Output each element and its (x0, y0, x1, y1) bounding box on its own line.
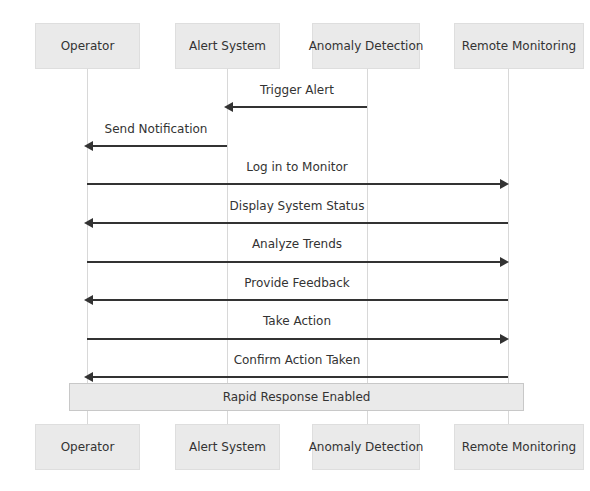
actor-operator-top: Operator (35, 23, 140, 69)
lifeline-operator (87, 68, 88, 424)
message-arrow (92, 145, 227, 147)
arrow-head-right-icon (500, 334, 509, 344)
actor-alert-system-bottom: Alert System (175, 424, 280, 470)
message-arrow (232, 106, 367, 108)
actor-label: Alert System (189, 39, 266, 53)
message-label: Analyze Trends (252, 237, 342, 251)
arrow-head-left-icon (84, 372, 93, 382)
actor-label: Operator (61, 39, 115, 53)
actor-remote-monitoring-top: Remote Monitoring (454, 23, 584, 69)
arrow-head-left-icon (84, 295, 93, 305)
actor-label: Remote Monitoring (462, 440, 576, 454)
actor-remote-monitoring-bottom: Remote Monitoring (454, 424, 584, 470)
message-label: Provide Feedback (244, 276, 349, 290)
message-label: Log in to Monitor (246, 160, 347, 174)
message-arrow (87, 261, 501, 263)
lifeline-anomaly-detection (367, 68, 368, 424)
lifeline-alert-system (227, 68, 228, 424)
sequence-diagram: Operator Alert System Anomaly Detection … (0, 0, 590, 491)
arrow-head-left-icon (224, 102, 233, 112)
actor-label: Remote Monitoring (462, 39, 576, 53)
lifeline-remote-monitoring (508, 68, 509, 424)
note-rapid-response: Rapid Response Enabled (69, 383, 524, 411)
message-label: Send Notification (105, 122, 208, 136)
arrow-head-left-icon (84, 141, 93, 151)
actor-label: Operator (61, 440, 115, 454)
message-arrow (93, 222, 508, 224)
actor-alert-system-top: Alert System (175, 23, 280, 69)
actor-operator-bottom: Operator (35, 424, 140, 470)
actor-label: Anomaly Detection (309, 39, 424, 53)
message-arrow (93, 299, 508, 301)
message-arrow (93, 376, 508, 378)
note-label: Rapid Response Enabled (223, 390, 371, 404)
message-label: Trigger Alert (260, 83, 334, 97)
actor-label: Alert System (189, 440, 266, 454)
message-label: Take Action (263, 314, 331, 328)
arrow-head-right-icon (500, 257, 509, 267)
message-label: Display System Status (230, 199, 365, 213)
message-label: Confirm Action Taken (234, 353, 361, 367)
arrow-head-right-icon (500, 179, 509, 189)
actor-label: Anomaly Detection (309, 440, 424, 454)
actor-anomaly-detection-bottom: Anomaly Detection (312, 424, 420, 470)
actor-anomaly-detection-top: Anomaly Detection (312, 23, 420, 69)
message-arrow (87, 183, 501, 185)
arrow-head-left-icon (84, 218, 93, 228)
message-arrow (87, 338, 501, 340)
